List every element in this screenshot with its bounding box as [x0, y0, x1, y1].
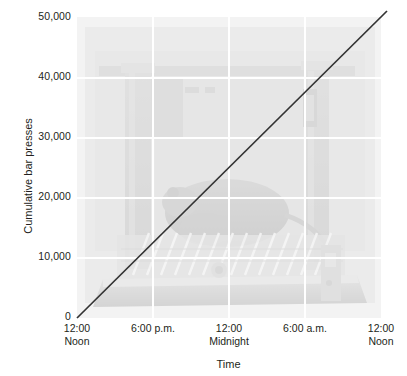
x-tick-label: 12:00 Noon [64, 322, 90, 347]
x-tick-line1: 12:00 [216, 322, 242, 334]
gridline-vertical [228, 17, 230, 318]
x-tick-line2: Noon [64, 335, 90, 348]
x-tick-line1: 6:00 a.m. [283, 322, 327, 334]
gridline-horizontal [77, 137, 381, 139]
gridline-vertical [304, 17, 306, 318]
y-axis-tick-labels: 50,000 40,000 30,000 20,000 10,000 0 [0, 0, 71, 376]
gridline-horizontal [77, 197, 381, 199]
y-axis-title: Cumulative bar presses [22, 86, 34, 266]
x-axis-title: Time [0, 358, 407, 370]
y-tick-label: 20,000 [5, 191, 71, 202]
y-tick-label: 0 [5, 311, 71, 322]
x-tick-line1: 12:00 [64, 322, 90, 334]
x-tick-line2: Midnight [209, 335, 249, 348]
gridline-horizontal [77, 77, 381, 79]
y-tick-label: 50,000 [5, 11, 71, 22]
x-tick-label: 12:00 Noon [368, 322, 394, 347]
cumulative-bar-presses-chart: 50,000 40,000 30,000 20,000 10,000 0 12:… [0, 0, 407, 376]
x-tick-line1: 12:00 [368, 322, 394, 334]
x-tick-label: 12:00 Midnight [209, 322, 249, 347]
x-tick-line2: Noon [368, 335, 394, 348]
x-tick-line1: 6:00 p.m. [131, 322, 175, 334]
y-tick-label: 40,000 [5, 71, 71, 82]
gridline-vertical [152, 17, 154, 318]
gridline-horizontal [77, 257, 381, 259]
y-tick-label: 30,000 [5, 131, 71, 142]
x-tick-label: 6:00 p.m. [131, 322, 175, 335]
y-tick-label: 10,000 [5, 251, 71, 262]
x-tick-label: 6:00 a.m. [283, 322, 327, 335]
plot-area [77, 17, 381, 318]
